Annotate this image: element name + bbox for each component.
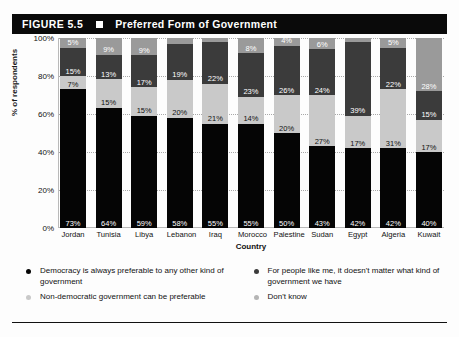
legend-item[interactable]: For people like me, it doesn't matter wh… xyxy=(240,266,448,287)
legend-item[interactable]: Non-democratic government can be prefera… xyxy=(12,292,230,303)
legend-item[interactable]: Don't know xyxy=(240,292,448,303)
bar-segment: 39% xyxy=(345,42,371,116)
bar-segment: 13% xyxy=(96,55,122,79)
bar-segment-label: 59% xyxy=(137,220,152,229)
bar-segment: 24% xyxy=(309,49,335,95)
bar-segment-label: 22% xyxy=(386,81,401,90)
bar-column[interactable]: 6%24%27%43% xyxy=(309,38,335,228)
bar-segment-label: 15% xyxy=(421,111,436,120)
bar-segment: 20% xyxy=(274,95,300,133)
y-axis-tick: 60% xyxy=(38,110,54,119)
bar-column[interactable]: 22%21%55% xyxy=(202,38,228,228)
x-axis-tick-algeria: Algeria xyxy=(380,230,406,239)
bar-segment-label: 13% xyxy=(101,71,116,80)
bar-segment-label: 73% xyxy=(65,220,80,229)
bar-segment-label: 17% xyxy=(421,144,436,153)
bar-segment: 21% xyxy=(202,84,228,124)
bar-segment: 31% xyxy=(380,89,406,148)
bar-column[interactable]: 28%15%17%40% xyxy=(416,38,442,228)
bar-segment: 50% xyxy=(274,133,300,228)
bar-segment-label: 28% xyxy=(421,83,436,92)
bar-column[interactable]: 19%20%58% xyxy=(167,38,193,228)
plot-area: % of respondents 0%20%40%60%80%100% 5%15… xyxy=(12,38,447,260)
y-axis-ticks: 0%20%40%60%80%100% xyxy=(24,38,56,228)
x-axis-tick-morocco: Morocco xyxy=(238,230,264,239)
bar-segment: 42% xyxy=(345,148,371,228)
bar-segment-label: 20% xyxy=(172,109,187,118)
bar-segment-label: 26% xyxy=(279,87,294,96)
bar-segment: 58% xyxy=(167,118,193,228)
bar-segment: 23% xyxy=(238,53,264,97)
chart-legend: Democracy is always preferable to any ot… xyxy=(12,266,447,312)
bar-series-group: 5%15%7%73%9%13%15%64%9%17%15%59%19%20%58… xyxy=(58,38,444,228)
bar-segment-label: 39% xyxy=(350,107,365,116)
bar-segment-label: 40% xyxy=(421,220,436,229)
bar-segment: 40% xyxy=(416,152,442,228)
bar-column[interactable]: 39%17%42% xyxy=(345,38,371,228)
bar-segment: 19% xyxy=(167,44,193,80)
y-axis-tick: 100% xyxy=(34,34,54,43)
legend-item[interactable]: Democracy is always preferable to any ot… xyxy=(12,266,230,287)
bar-segment-label: 15% xyxy=(101,99,116,108)
bar-segment: 59% xyxy=(131,116,157,228)
bar-segment: 8% xyxy=(238,38,264,53)
bar-segment-label: 9% xyxy=(103,46,114,55)
bar-segment: 15% xyxy=(131,87,157,116)
bar-segment: 26% xyxy=(274,46,300,95)
y-axis-tick: 40% xyxy=(38,148,54,157)
x-axis-tick-egypt: Egypt xyxy=(345,230,371,239)
figure-title: Preferred Form of Government xyxy=(115,18,277,30)
bar-segment-label: 9% xyxy=(139,47,150,56)
x-axis-label: Country xyxy=(58,242,444,251)
bar-segment-label: 22% xyxy=(208,75,223,84)
bar-segment-label: 17% xyxy=(350,140,365,149)
bar-segment: 73% xyxy=(60,89,86,228)
bar-column[interactable]: 8%23%14%55% xyxy=(238,38,264,228)
bar-segment: 14% xyxy=(238,97,264,124)
bar-column[interactable]: 9%13%15%64% xyxy=(96,38,122,228)
bar-segment: 20% xyxy=(167,80,193,118)
bar-segment: 43% xyxy=(309,146,335,228)
bar-segment-label: 7% xyxy=(68,81,79,90)
legend-swatch-icon xyxy=(254,269,259,274)
bar-segment-label: 4% xyxy=(281,37,292,46)
x-axis-tick-jordan: Jordan xyxy=(60,230,86,239)
bar-segment: 6% xyxy=(309,38,335,49)
figure-container: FIGURE 5.5 Preferred Form of Government … xyxy=(0,0,459,337)
bar-segment-label: 20% xyxy=(279,125,294,134)
bar-segment: 5% xyxy=(380,38,406,48)
bar-column[interactable]: 9%17%15%59% xyxy=(131,38,157,228)
bar-segment: 17% xyxy=(416,120,442,152)
legend-column-right: For people like me, it doesn't matter wh… xyxy=(230,266,448,312)
bar-segment: 27% xyxy=(309,95,335,146)
bar-column[interactable]: 5%15%7%73% xyxy=(60,38,86,228)
y-axis-tick: 20% xyxy=(38,186,54,195)
bar-column[interactable]: 5%22%31%42% xyxy=(380,38,406,228)
bar-segment-label: 15% xyxy=(137,107,152,116)
bar-segment-label: 43% xyxy=(315,220,330,229)
x-axis-tick-libya: Libya xyxy=(131,230,157,239)
bar-segment-label: 19% xyxy=(172,71,187,80)
bar-segment-label: 64% xyxy=(101,220,116,229)
bar-segment: 17% xyxy=(131,55,157,87)
legend-swatch-icon xyxy=(26,269,31,274)
bar-segment-label: 55% xyxy=(243,220,258,229)
x-axis-tick-lebanon: Lebanon xyxy=(167,230,193,239)
bar-segment-label: 24% xyxy=(315,87,330,96)
bar-segment-label: 8% xyxy=(246,45,257,54)
black-square-icon xyxy=(96,21,103,28)
legend-column-left: Democracy is always preferable to any ot… xyxy=(12,266,230,312)
bar-segment: 55% xyxy=(238,124,264,229)
bar-segment-label: 50% xyxy=(279,220,294,229)
legend-item-label: For people like me, it doesn't matter wh… xyxy=(268,266,448,287)
legend-item-label: Democracy is always preferable to any ot… xyxy=(40,266,230,287)
bar-segment: 28% xyxy=(416,38,442,91)
y-axis-tick: 80% xyxy=(38,72,54,81)
bar-segment-label: 42% xyxy=(386,220,401,229)
figure-title-bar: FIGURE 5.5 Preferred Form of Government xyxy=(12,14,447,34)
legend-swatch-icon xyxy=(254,295,259,300)
legend-item-label: Don't know xyxy=(268,292,307,303)
bar-segment-label: 17% xyxy=(137,79,152,88)
bar-segment: 64% xyxy=(96,108,122,228)
bar-column[interactable]: 4%26%20%50% xyxy=(274,38,300,228)
